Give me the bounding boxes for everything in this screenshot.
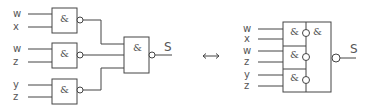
negation-bubble-icon <box>77 52 83 58</box>
and-symbol: & <box>60 13 69 24</box>
final-nand-gate: & S <box>124 37 172 73</box>
nand-gate-2: w z & <box>13 43 83 68</box>
equivalence-arrow-icon <box>203 54 219 59</box>
input-label: z <box>13 91 18 102</box>
and-symbol: & <box>60 84 69 95</box>
input-label: z <box>244 80 249 91</box>
output-label: S <box>164 40 172 54</box>
input-label: y <box>244 69 250 80</box>
negation-bubble-icon <box>77 17 83 23</box>
nand-gate-1: w x & <box>13 8 83 33</box>
input-label: w <box>243 45 251 56</box>
input-label: w <box>13 8 21 19</box>
negation-bubble-icon <box>303 54 310 61</box>
and-symbol: & <box>290 49 299 60</box>
input-label: w <box>13 43 21 54</box>
negation-bubble-icon <box>332 54 340 62</box>
output-label: S <box>350 42 358 56</box>
logic-diagram: w x & w z & y z & <box>0 0 369 109</box>
and-symbol: & <box>290 26 299 37</box>
negation-bubble-icon <box>77 87 83 93</box>
input-label: z <box>13 56 18 67</box>
and-symbol: & <box>133 42 142 53</box>
right-combined-block: w x w z y z & & & & S <box>243 22 358 92</box>
and-symbol: & <box>60 48 69 59</box>
negation-bubble-icon <box>303 30 310 37</box>
input-label: z <box>244 56 249 67</box>
and-symbol: & <box>290 72 299 83</box>
input-label: x <box>244 33 250 44</box>
input-label: x <box>13 21 19 32</box>
and-symbol: & <box>313 26 322 37</box>
negation-bubble-icon <box>149 52 155 58</box>
input-label: y <box>13 79 19 90</box>
nand-gate-3: y z & <box>13 79 83 104</box>
negation-bubble-icon <box>303 77 310 84</box>
left-circuit: w x & w z & y z & <box>13 8 172 104</box>
